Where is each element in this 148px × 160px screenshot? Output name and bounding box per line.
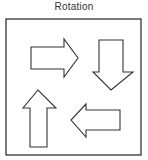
arrow-left-icon bbox=[71, 104, 120, 137]
frame-box bbox=[6, 19, 141, 155]
arrow-down-icon bbox=[93, 40, 133, 90]
rotation-diagram bbox=[0, 0, 148, 160]
arrow-right-icon bbox=[31, 39, 78, 77]
arrow-up-icon bbox=[23, 90, 56, 147]
